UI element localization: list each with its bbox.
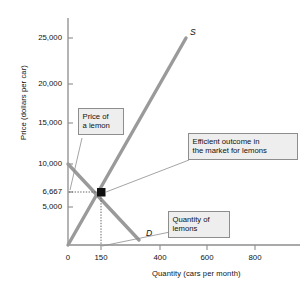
callout-quantity-of-lemons: Quantity of lemons [168, 211, 230, 238]
leader-efficient-outcome [106, 160, 189, 192]
lemons-market-chart: Price (dollars per car) Quantity (cars p… [0, 0, 306, 290]
y-tick-label-15000: 15,000 [22, 118, 62, 127]
x-tick-label-800: 800 [235, 253, 275, 262]
y-axis-title: Price (dollars per car) [19, 33, 28, 173]
y-tick-label-20000: 20,000 [22, 79, 62, 88]
x-tick-label-400: 400 [140, 253, 180, 262]
y-tick-label-25000: 25,000 [22, 33, 62, 42]
y-tick-label-10000: 10,000 [22, 159, 62, 168]
y-tick-label-5000: 5,000 [22, 202, 62, 211]
supply-curve-label: S [190, 27, 196, 37]
x-tick-label-150: 150 [81, 253, 121, 262]
x-tick-label-600: 600 [187, 253, 227, 262]
x-axis-title: Quantity (cars per month) [152, 269, 241, 278]
callout-price-of-a-lemon: Price of a lemon [78, 108, 124, 135]
y-tick-label-6667: 6,667 [22, 187, 62, 196]
callout-efficient-outcome: Efficient outcome in the market for lemo… [188, 133, 298, 160]
x-axis-ticks [101, 245, 255, 250]
leader-quantity-of-lemons [102, 232, 170, 246]
demand-curve-label: D [146, 228, 152, 238]
equilibrium-marker [97, 188, 106, 197]
